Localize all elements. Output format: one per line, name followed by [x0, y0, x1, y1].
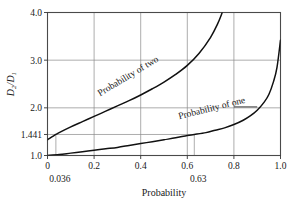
- ytick-label-0: 1.0: [30, 151, 42, 161]
- xtick-label-5: 1.0: [275, 161, 287, 171]
- chart-canvas: 00.20.40.60.81.01.01.4412.03.04.00.0360.…: [0, 0, 301, 205]
- ytick-label-4: 4.0: [30, 8, 42, 18]
- y-axis: 1.01.4412.03.04.0: [21, 8, 48, 161]
- reference-lines: [48, 134, 195, 155]
- ytick-label-2: 2.0: [30, 103, 42, 113]
- axis-annotations: 0.0360.63: [49, 174, 207, 184]
- x-axis-title: Probability: [142, 187, 186, 198]
- y-axis-title: D2/D1: [5, 72, 18, 97]
- plot-frame: [48, 13, 281, 156]
- data-curves: [48, 13, 281, 156]
- plot-border: [48, 13, 281, 156]
- xtick-label-4: 0.8: [228, 161, 240, 171]
- x-marker-lower-label: 0.036: [49, 174, 71, 184]
- x-axis: 00.20.40.60.81.0: [45, 156, 287, 171]
- curve-probability-of-one: [48, 40, 281, 155]
- xtick-label-0: 0: [45, 161, 50, 171]
- xtick-label-2: 0.4: [135, 161, 147, 171]
- xtick-label-3: 0.6: [181, 161, 193, 171]
- chart-figure: 00.20.40.60.81.01.01.4412.03.04.00.0360.…: [0, 0, 301, 205]
- gridlines: [48, 13, 281, 156]
- ytick-label-3: 3.0: [30, 56, 42, 66]
- xtick-label-1: 0.2: [88, 161, 100, 171]
- x-marker-upper-label: 0.63: [190, 174, 207, 184]
- ytick-label-1: 1.441: [21, 130, 43, 140]
